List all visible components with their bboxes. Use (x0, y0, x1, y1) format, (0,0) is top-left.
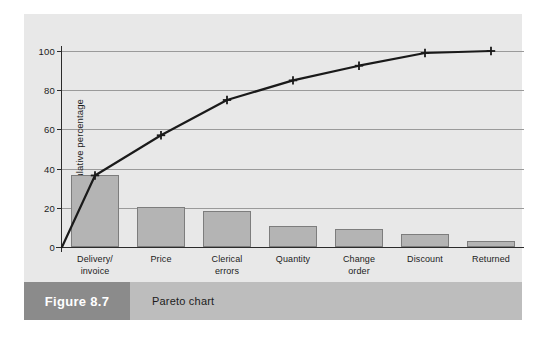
figure-caption-band: Figure 8.7 Pareto chart (24, 282, 522, 320)
x-axis-category-label-line: Price (128, 254, 194, 266)
y-tick-label: 20 (44, 202, 55, 213)
x-axis-category-label: Quantity (260, 254, 326, 266)
x-axis-category-label: Price (128, 254, 194, 266)
x-axis-category-label-line: Discount (392, 254, 458, 266)
x-axis-category-label-line: Clerical (194, 254, 260, 266)
y-tick-label: 80 (44, 85, 55, 96)
x-axis-category-label-line: errors (194, 266, 260, 278)
figure-caption-text: Pareto chart (152, 295, 214, 307)
plot-area: 020406080100 Cumulative percentage (62, 51, 524, 247)
figure-panel: 020406080100 Cumulative percentage Deliv… (24, 14, 522, 320)
y-tick-label: 0 (50, 242, 55, 253)
x-axis-category-label-line: order (326, 266, 392, 278)
x-axis-category-label: Returned (458, 254, 524, 266)
x-axis-category-label: Changeorder (326, 254, 392, 277)
pareto-chart: 020406080100 Cumulative percentage Deliv… (24, 14, 522, 282)
figure-number-label: Figure 8.7 (45, 294, 109, 309)
x-axis-category-label-line: Change (326, 254, 392, 266)
x-axis-line (56, 247, 524, 248)
x-axis-category-label-line: Returned (458, 254, 524, 266)
y-tick-label: 60 (44, 124, 55, 135)
cumulative-line-series (62, 51, 524, 247)
x-axis-category-label-line: invoice (62, 266, 128, 278)
x-axis-category-label-line: Delivery/ (62, 254, 128, 266)
x-axis-category-label: Delivery/invoice (62, 254, 128, 277)
cumulative-line-markers (91, 47, 495, 180)
x-axis-category-label: Discount (392, 254, 458, 266)
y-tick-label: 40 (44, 163, 55, 174)
figure-number-box: Figure 8.7 (24, 282, 130, 320)
y-tick-label: 100 (39, 46, 55, 57)
x-axis-category-label-line: Quantity (260, 254, 326, 266)
x-axis-category-label: Clericalerrors (194, 254, 260, 277)
cumulative-line-path (62, 51, 491, 247)
